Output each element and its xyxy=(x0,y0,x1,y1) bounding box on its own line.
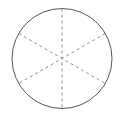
diagram-canvas xyxy=(0,0,123,122)
circle-sector-diagram xyxy=(0,0,123,122)
